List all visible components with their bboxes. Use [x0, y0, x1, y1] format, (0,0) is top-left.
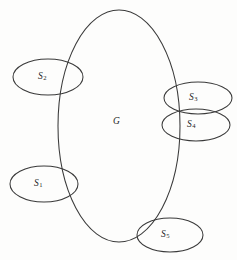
- set-label-s2: S2: [38, 71, 47, 81]
- venn-diagram-figure: G S2 S1 S3 S4 S5: [0, 0, 237, 260]
- set-label-s4-subscript: 4: [192, 122, 196, 129]
- set-label-s2-subscript: 2: [43, 74, 47, 81]
- set-label-s3-subscript: 3: [194, 95, 198, 102]
- set-label-s4: S4: [187, 119, 196, 129]
- set-ellipse-s2: [13, 59, 83, 95]
- universe-label-g: G: [113, 116, 120, 126]
- set-ellipse-s5: [137, 218, 203, 252]
- set-label-s3: S3: [189, 92, 198, 102]
- set-label-s5: S5: [161, 229, 170, 239]
- set-label-s1-subscript: 1: [39, 181, 43, 188]
- set-label-s5-subscript: 5: [166, 232, 170, 239]
- set-label-s1: S1: [34, 178, 43, 188]
- venn-diagram-canvas: [0, 0, 237, 260]
- set-ellipse-s1: [10, 166, 78, 202]
